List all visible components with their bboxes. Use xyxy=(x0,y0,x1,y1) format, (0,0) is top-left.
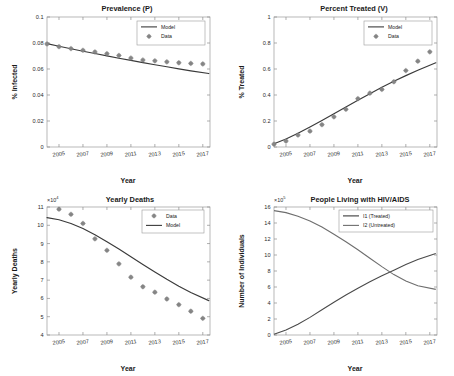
yearly-deaths-y-multiplier: ×104 xyxy=(47,195,59,203)
x-tick-label: 2005 xyxy=(279,150,292,158)
y-tick-label: 11 xyxy=(38,204,44,210)
x-tick-label: 2013 xyxy=(375,150,388,158)
legend-label: Model xyxy=(166,222,180,228)
x-tick-label: 2011 xyxy=(351,150,364,158)
x-tick-label: 2009 xyxy=(100,338,113,346)
x-tick-label: 2005 xyxy=(52,150,65,158)
percent-treated-title: Percent Treated (V) xyxy=(320,4,388,13)
percent-treated-ylabel: % Treated xyxy=(238,65,245,98)
y-tick-label: 0.02 xyxy=(33,118,44,124)
x-tick-label: 2009 xyxy=(327,338,340,346)
x-tick-label: 2015 xyxy=(172,150,185,158)
figure-canvas: Prevalence (P) 2005200720092011201320152… xyxy=(0,0,454,376)
legend-label: Data xyxy=(388,33,399,39)
x-tick-label: 2005 xyxy=(52,338,65,346)
panel-people-living-with-hiv: People Living with HIV/AIDS 200520072009… xyxy=(227,188,454,376)
prevalence-ylabel: % Infected xyxy=(11,64,18,99)
y-tick-label: 0 xyxy=(267,332,270,338)
y-tick-label: 0.04 xyxy=(33,92,44,98)
percent-treated-chart: Percent Treated (V) 20052007200920112013… xyxy=(227,0,454,188)
y-tick-label: 9 xyxy=(40,241,43,247)
legend-label: Data xyxy=(166,213,177,219)
x-tick-label: 2015 xyxy=(172,338,185,346)
y-tick-label: 10 xyxy=(37,222,43,228)
y-tick-label: 0.2 xyxy=(263,118,271,124)
people-living-ylabel: Number of Individuals xyxy=(238,234,245,308)
x-tick-label: 2007 xyxy=(303,150,316,158)
y-tick-label: 8 xyxy=(40,259,43,265)
x-tick-label: 2009 xyxy=(100,150,113,158)
y-tick-label: 5 xyxy=(40,314,43,320)
y-tick-label: 7 xyxy=(40,277,43,283)
yearly-deaths-xlabel: Year xyxy=(121,365,136,372)
people-living-chart: People Living with HIV/AIDS 200520072009… xyxy=(227,188,454,376)
yearly-deaths-chart: Yearly Deaths 20052007200920112013201520… xyxy=(0,188,227,376)
prevalence-xlabel: Year xyxy=(121,177,136,184)
prevalence-chart: Prevalence (P) 2005200720092011201320152… xyxy=(0,0,227,188)
x-tick-label: 2007 xyxy=(303,338,316,346)
legend-label: I1 (Treated) xyxy=(363,213,390,219)
yearly-deaths-ylabel: Yearly Deaths xyxy=(11,248,19,294)
yearly-deaths-legend[interactable]: DataModel xyxy=(142,210,204,233)
panel-percent-treated: Percent Treated (V) 20052007200920112013… xyxy=(227,0,454,188)
y-tick-label: 0.08 xyxy=(33,40,44,46)
percent-treated-legend[interactable]: ModelData xyxy=(364,21,432,45)
y-tick-label: 12 xyxy=(264,236,270,242)
people-living-title: People Living with HIV/AIDS xyxy=(311,195,410,204)
y-tick-label: 4 xyxy=(267,300,270,306)
y-tick-label: 2 xyxy=(267,316,270,322)
y-tick-label: 0 xyxy=(267,144,270,150)
x-tick-label: 2007 xyxy=(76,150,89,158)
legend-label: Model xyxy=(388,24,402,30)
x-tick-label: 2015 xyxy=(399,150,412,158)
legend-label: Model xyxy=(161,24,175,30)
x-tick-label: 2011 xyxy=(124,150,137,158)
y-tick-label: 6 xyxy=(267,284,270,290)
x-tick-label: 2011 xyxy=(351,338,364,346)
y-tick-label: 0.06 xyxy=(33,66,44,72)
x-tick-label: 2017 xyxy=(423,338,436,346)
yearly-deaths-title: Yearly Deaths xyxy=(106,195,154,204)
y-tick-label: 16 xyxy=(264,204,270,210)
prevalence-title: Prevalence (P) xyxy=(102,4,153,13)
panel-yearly-deaths: Yearly Deaths 20052007200920112013201520… xyxy=(0,188,227,376)
people-living-y-multiplier: ×105 xyxy=(274,195,286,203)
y-tick-label: 14 xyxy=(264,220,270,226)
legend-label: I2 (Untreated) xyxy=(363,222,395,228)
y-tick-label: 0.4 xyxy=(263,92,271,98)
x-tick-label: 2017 xyxy=(196,338,209,346)
y-tick-label: 0.6 xyxy=(263,66,271,72)
x-tick-label: 2011 xyxy=(124,338,137,346)
y-tick-label: 4 xyxy=(40,332,43,338)
x-tick-label: 2007 xyxy=(76,338,89,346)
x-tick-label: 2005 xyxy=(279,338,292,346)
y-tick-label: 6 xyxy=(40,295,43,301)
y-tick-label: 1 xyxy=(267,14,270,20)
x-tick-label: 2013 xyxy=(375,338,388,346)
prevalence-legend[interactable]: ModelData xyxy=(137,21,205,45)
y-tick-label: 0.8 xyxy=(263,40,271,46)
percent-treated-xlabel: Year xyxy=(348,177,363,184)
y-tick-label: 0 xyxy=(40,144,43,150)
x-tick-label: 2009 xyxy=(327,150,340,158)
people-living-legend[interactable]: I1 (Treated)I2 (Untreated) xyxy=(339,210,433,232)
x-tick-label: 2013 xyxy=(148,150,161,158)
x-tick-label: 2017 xyxy=(196,150,209,158)
x-tick-label: 2015 xyxy=(399,338,412,346)
y-tick-label: 10 xyxy=(264,252,270,258)
x-tick-label: 2013 xyxy=(148,338,161,346)
legend-label: Data xyxy=(161,33,172,39)
x-tick-label: 2017 xyxy=(423,150,436,158)
y-tick-label: 8 xyxy=(267,268,270,274)
y-tick-label: 0.1 xyxy=(36,14,44,20)
people-living-xlabel: Year xyxy=(348,365,363,372)
panel-prevalence: Prevalence (P) 2005200720092011201320152… xyxy=(0,0,227,188)
